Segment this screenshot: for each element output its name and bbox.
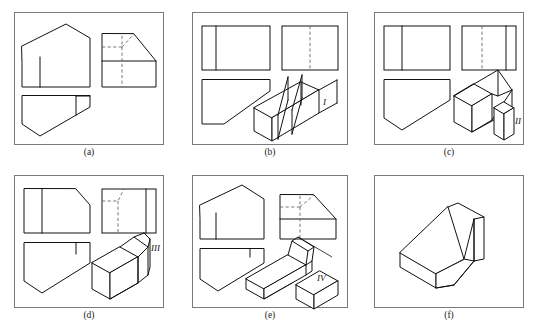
- pictorial-e: IV: [246, 237, 338, 309]
- top-view-c: [384, 80, 450, 130]
- part-label-2: II: [514, 116, 522, 126]
- panel-a: (a): [14, 12, 164, 161]
- front-view-b: [202, 26, 270, 70]
- pictorial-d: III: [92, 233, 161, 299]
- figure-sheet: (a): [0, 0, 538, 329]
- panel-c-drawing: II: [374, 12, 524, 145]
- panel-f-drawing: [374, 175, 524, 308]
- panel-a-caption: (a): [14, 147, 164, 157]
- part-label-1: I: [322, 97, 327, 107]
- panel-b-drawing: I: [192, 12, 348, 145]
- front-view-a: [22, 24, 90, 87]
- panel-d: III (d): [14, 175, 164, 324]
- side-view-b: [282, 26, 338, 70]
- panel-b-caption: (b): [192, 147, 348, 157]
- part-label-4: IV: [316, 273, 327, 283]
- panel-c: II (c): [374, 12, 524, 161]
- side-view-a: [102, 34, 156, 87]
- front-view-c: [384, 26, 450, 70]
- front-view-d: [24, 189, 90, 233]
- panel-d-caption: (d): [14, 310, 164, 320]
- pictorial-b: I: [254, 75, 337, 141]
- panel-f-caption: (f): [374, 310, 524, 320]
- panel-a-drawing: [14, 12, 164, 145]
- panel-b: I (b): [192, 12, 348, 161]
- side-view-d: [102, 189, 156, 233]
- pictorial-f: [400, 203, 484, 288]
- panel-f: (f): [374, 175, 524, 324]
- panel-d-drawing: III: [14, 175, 164, 308]
- panel-e-caption: (e): [192, 310, 348, 320]
- panel-e: IV (e): [192, 175, 348, 324]
- pictorial-c: II: [454, 70, 522, 140]
- side-view-e: [280, 195, 336, 239]
- top-view-a: [22, 96, 90, 136]
- top-view-d: [24, 243, 90, 293]
- side-view-c: [462, 26, 516, 70]
- part-label-3: III: [150, 243, 161, 253]
- front-view-e: [200, 185, 264, 239]
- panel-e-drawing: IV: [192, 175, 348, 308]
- panel-c-caption: (c): [374, 147, 524, 157]
